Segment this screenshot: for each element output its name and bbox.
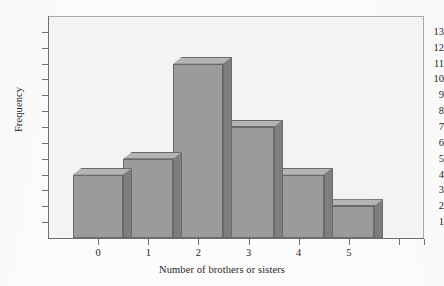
x-axis-tick-label: 2 [183, 248, 213, 259]
y-axis-tick [42, 206, 49, 207]
x-axis-title: Number of brothers or sisters [0, 264, 444, 275]
page-background: 12345678910111213 012345 Frequency Numbe… [0, 0, 444, 286]
y-axis-tick-label: 12 [418, 43, 444, 54]
y-axis-tick [42, 159, 49, 160]
x-axis-tick-label: 4 [284, 248, 314, 259]
y-axis-tick-label: 3 [418, 185, 444, 196]
histogram-bar-side-face [173, 152, 182, 238]
y-axis-tick-label: 11 [418, 59, 444, 70]
histogram-bar-side-face [274, 120, 283, 238]
x-axis-minor-tick [399, 239, 400, 245]
y-axis-tick-label: 8 [418, 106, 444, 117]
y-axis-title: Frequency [13, 60, 24, 160]
histogram-bar-top-face [123, 152, 182, 159]
y-axis-tick-label: 6 [418, 138, 444, 149]
histogram-bar-side-face [324, 168, 333, 238]
y-axis-tick [42, 127, 49, 128]
y-axis-tick [42, 32, 49, 33]
x-axis-minor-tick [424, 239, 425, 245]
histogram-bar [73, 168, 132, 238]
x-axis-tick [148, 239, 149, 245]
x-axis-tick-label: 0 [83, 248, 113, 259]
y-axis-tick [42, 95, 49, 96]
histogram-figure: 12345678910111213 012345 Frequency Numbe… [0, 0, 444, 286]
y-axis-tick-label: 4 [418, 170, 444, 181]
x-axis-tick-label: 3 [234, 248, 264, 259]
y-axis-tick [42, 64, 49, 65]
histogram-bar-side-face [223, 57, 232, 238]
y-axis-tick [42, 79, 49, 80]
x-axis-line [48, 238, 424, 239]
y-axis-tick [42, 222, 49, 223]
y-axis-tick [42, 143, 49, 144]
x-axis-tick [349, 239, 350, 245]
y-axis-tick-label: 7 [418, 122, 444, 133]
y-axis-tick-label: 1 [418, 217, 444, 228]
y-axis-tick [42, 175, 49, 176]
y-axis-tick [42, 48, 49, 49]
x-axis-tick-label: 1 [133, 248, 163, 259]
histogram-bar-side-face [123, 168, 132, 238]
histogram-bar-top-face [173, 57, 232, 64]
x-axis-tick [299, 239, 300, 245]
y-axis-tick [42, 111, 49, 112]
y-axis-tick-label: 2 [418, 201, 444, 212]
x-axis-tick [198, 239, 199, 245]
histogram-bar-top-face [73, 168, 132, 175]
y-axis-tick-label: 10 [418, 74, 444, 85]
y-axis-tick-label: 13 [418, 27, 444, 38]
x-axis-tick [98, 239, 99, 245]
y-axis-tick-label: 9 [418, 90, 444, 101]
histogram-bar-front-face [73, 175, 123, 238]
y-axis-tick [42, 190, 49, 191]
x-axis-tick-label: 5 [334, 248, 364, 259]
y-axis-tick-label: 5 [418, 154, 444, 165]
x-axis-tick [249, 239, 250, 245]
